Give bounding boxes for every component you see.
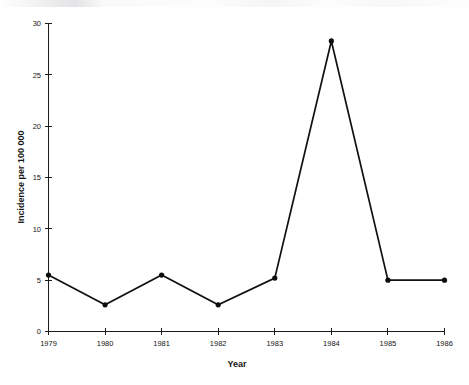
data-point-1985 (385, 278, 390, 283)
x-tick-label-1982: 1982 (210, 339, 227, 348)
x-tick-label-1986: 1986 (436, 339, 453, 348)
chart-canvas: 0 5 10 15 20 25 30 Incidence per 100 000 (0, 0, 469, 385)
x-tick-label-1980: 1980 (97, 339, 114, 348)
x-axis-tick-labels: 1979 1980 1981 1982 1983 1984 1985 1986 (40, 339, 453, 348)
y-tick-label-5: 5 (37, 276, 41, 285)
y-tick-label-15: 15 (33, 173, 41, 182)
data-point-1981 (159, 272, 164, 277)
incidence-series-line (49, 41, 445, 305)
y-axis: 0 5 10 15 20 25 30 Incidence per 100 000 (16, 19, 52, 336)
x-tick-label-1981: 1981 (153, 339, 170, 348)
x-tick-label-1979: 1979 (40, 339, 57, 348)
y-axis-tick-labels: 0 5 10 15 20 25 30 (33, 19, 41, 336)
incidence-line-chart: 0 5 10 15 20 25 30 Incidence per 100 000 (0, 0, 469, 385)
data-point-1984 (329, 38, 334, 43)
data-point-1979 (46, 272, 51, 277)
y-axis-title: Incidence per 100 000 (16, 130, 26, 223)
y-tick-label-0: 0 (37, 327, 41, 336)
incidence-series-markers (46, 38, 447, 307)
y-tick-label-25: 25 (33, 71, 41, 80)
series-group (46, 38, 447, 307)
data-point-1986 (442, 278, 447, 283)
data-point-1980 (102, 302, 107, 307)
x-axis: 1979 1980 1981 1982 1983 1984 1985 1986 … (40, 328, 453, 369)
y-tick-label-20: 20 (33, 122, 41, 131)
data-point-1982 (216, 302, 221, 307)
x-tick-label-1983: 1983 (266, 339, 283, 348)
y-tick-label-10: 10 (33, 225, 41, 234)
y-tick-label-30: 30 (33, 19, 41, 28)
x-tick-label-1985: 1985 (380, 339, 397, 348)
x-axis-title: Year (227, 359, 247, 369)
data-point-1983 (272, 276, 277, 281)
x-tick-label-1984: 1984 (323, 339, 340, 348)
